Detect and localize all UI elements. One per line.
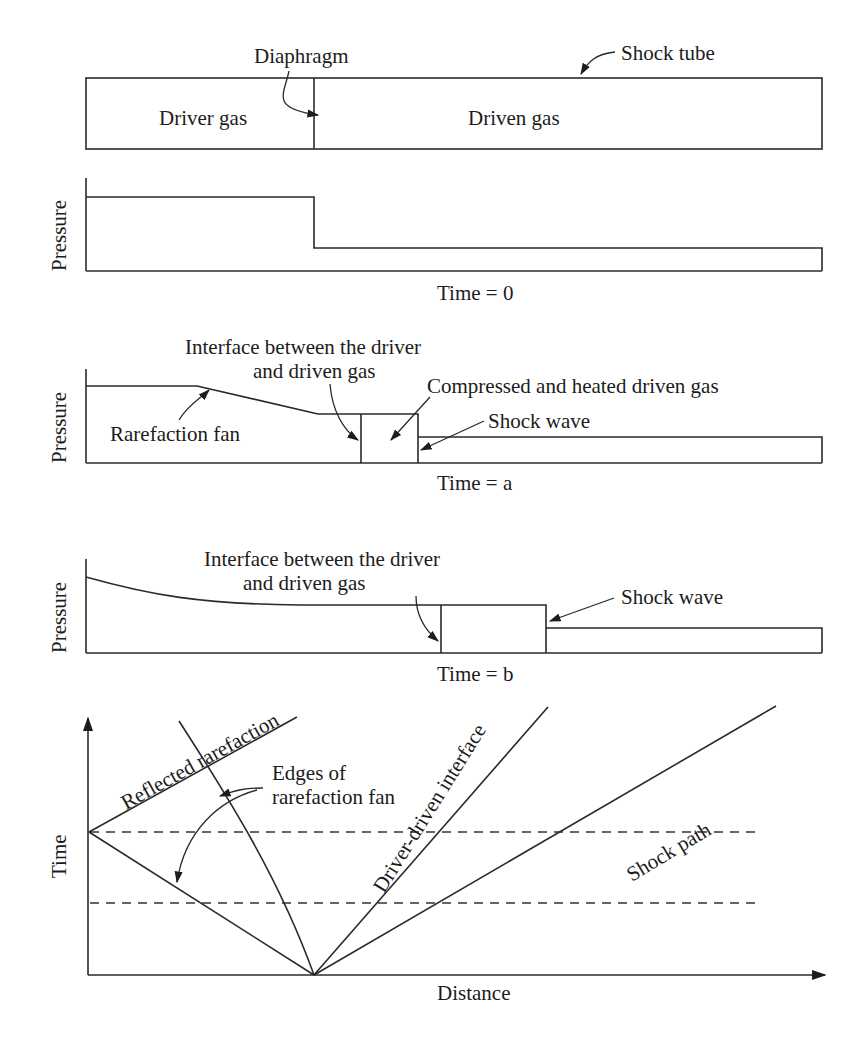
shock-tube-diagram: Driver gas Driven gas Diaphragm Shock tu… bbox=[0, 0, 862, 1037]
xt-diagram: Time Distance Reflected rarefaction Driv… bbox=[47, 706, 825, 1005]
interface-arrow-icon bbox=[416, 596, 438, 641]
shock-tube: Driver gas Driven gas Diaphragm Shock tu… bbox=[86, 41, 822, 149]
pressure-profile-driven bbox=[418, 437, 822, 463]
time-caption: Time = 0 bbox=[437, 281, 513, 305]
compressed-gas-label: Compressed and heated driven gas bbox=[427, 374, 719, 398]
shock-tube-label: Shock tube bbox=[621, 41, 715, 65]
edges-label-line1: Edges of bbox=[272, 761, 346, 785]
compressed-arrow-icon bbox=[391, 397, 430, 440]
distance-axis-label: Distance bbox=[437, 981, 510, 1005]
shock-wave-label: Shock wave bbox=[621, 585, 723, 609]
interface-label-line2: and driven gas bbox=[253, 359, 375, 383]
pressure-axis-label: Pressure bbox=[47, 200, 71, 271]
time-caption: Time = b bbox=[437, 662, 513, 686]
diaphragm-label: Diaphragm bbox=[254, 44, 348, 68]
rarefaction-fan-label: Rarefaction fan bbox=[110, 422, 241, 446]
interface-label-line1: Interface between the driver bbox=[185, 335, 421, 359]
interface-label-line1: Interface between the driver bbox=[204, 547, 440, 571]
edges-arrow-bottom-icon bbox=[177, 790, 257, 882]
pressure-profile-driven bbox=[546, 628, 822, 653]
pressure-panel-t0: Pressure Time = 0 bbox=[47, 178, 822, 305]
pressure-axis-label: Pressure bbox=[47, 392, 71, 463]
interface-arrow-icon bbox=[330, 384, 358, 440]
shock-path-label: Shock path bbox=[622, 817, 715, 886]
interface-path-line bbox=[314, 707, 548, 975]
shock-arrow-icon bbox=[421, 421, 484, 450]
shock-arrow-icon bbox=[550, 598, 614, 621]
shock-wave-label: Shock wave bbox=[488, 409, 590, 433]
edges-label-line2: rarefaction fan bbox=[272, 785, 395, 809]
time-axis-label: Time bbox=[47, 834, 71, 878]
interface-label-line2: and driven gas bbox=[243, 571, 365, 595]
driven-gas-label: Driven gas bbox=[468, 106, 560, 130]
rarefaction-arrow-icon bbox=[179, 390, 209, 420]
reflected-rarefaction-label: Reflected rarefaction bbox=[117, 708, 284, 815]
pressure-panel-tb: Pressure Time = b Interface between the … bbox=[47, 547, 822, 686]
pressure-profile bbox=[86, 197, 822, 271]
driver-gas-label: Driver gas bbox=[159, 106, 247, 130]
pressure-panel-ta: Pressure Time = a Interface between the … bbox=[47, 335, 822, 495]
shock-tube-arrow-icon bbox=[581, 52, 615, 74]
time-caption: Time = a bbox=[437, 471, 513, 495]
pressure-axis-label: Pressure bbox=[47, 582, 71, 653]
